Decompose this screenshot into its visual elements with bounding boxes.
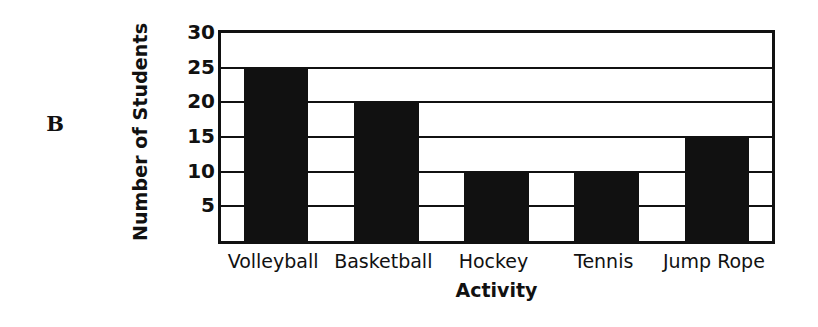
bar-tennis[interactable] xyxy=(574,172,638,241)
y-tick-label-30: 30 xyxy=(160,22,215,42)
bar-volleyball[interactable] xyxy=(244,68,308,241)
x-tick-label-tennis: Tennis xyxy=(549,248,659,274)
bar-basketball[interactable] xyxy=(354,102,418,241)
y-axis-title-container: Number of Students xyxy=(123,12,157,252)
plot-inner xyxy=(221,33,772,241)
y-tick-label-20: 20 xyxy=(160,91,215,111)
y-tick-label-5: 5 xyxy=(160,195,215,215)
bar-chart-figure: B Number of Students 30252015105 Volleyb… xyxy=(0,0,818,327)
y-tick-label-25: 25 xyxy=(160,57,215,77)
x-tick-label-basketball: Basketball xyxy=(328,248,438,274)
x-axis-tick-labels: VolleyballBasketballHockeyTennisJump Rop… xyxy=(218,248,775,276)
x-tick-label-jump-rope: Jump Rope xyxy=(659,248,769,274)
x-tick-label-volleyball: Volleyball xyxy=(218,248,328,274)
plot-area xyxy=(218,30,775,244)
y-axis-title: Number of Students xyxy=(129,23,151,241)
y-tick-label-15: 15 xyxy=(160,126,215,146)
x-tick-label-hockey: Hockey xyxy=(438,248,548,274)
panel-label-b: B xyxy=(40,112,70,136)
x-axis-title: Activity xyxy=(218,278,775,302)
y-axis-tick-labels: 30252015105 xyxy=(160,0,215,327)
bar-jump-rope[interactable] xyxy=(685,137,749,241)
y-tick-label-10: 10 xyxy=(160,161,215,181)
bar-hockey[interactable] xyxy=(464,172,528,241)
